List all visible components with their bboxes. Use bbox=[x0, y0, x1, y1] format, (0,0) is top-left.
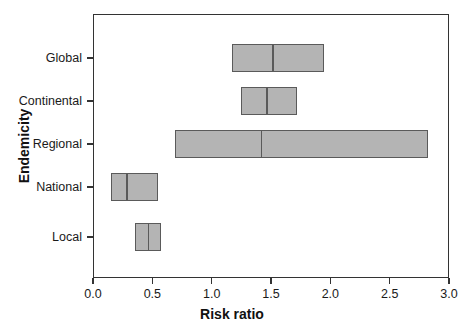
x-axis-tick bbox=[448, 278, 450, 284]
y-axis-tick-label: Local bbox=[52, 230, 82, 244]
x-axis-tick bbox=[270, 278, 272, 284]
x-axis-tick-label: 3.0 bbox=[440, 287, 457, 301]
x-axis-tick bbox=[330, 278, 332, 284]
median-line bbox=[148, 224, 150, 250]
y-axis-tick bbox=[87, 236, 94, 238]
y-axis-tick-label: Regional bbox=[33, 137, 82, 151]
x-axis-tick bbox=[92, 278, 94, 284]
x-axis-tick bbox=[211, 278, 213, 284]
x-axis-tick-label: 0.5 bbox=[144, 287, 161, 301]
x-axis-tick bbox=[389, 278, 391, 284]
risk-ratio-bar bbox=[135, 223, 161, 251]
median-line bbox=[126, 174, 128, 200]
x-axis-tick-label: 0.0 bbox=[84, 287, 101, 301]
risk-ratio-bar bbox=[232, 44, 325, 72]
risk-ratio-bar bbox=[175, 130, 428, 158]
x-axis-tick bbox=[152, 278, 154, 284]
median-line bbox=[266, 88, 268, 114]
y-axis-tick bbox=[87, 100, 94, 102]
y-axis-tick bbox=[87, 57, 94, 59]
risk-ratio-bar bbox=[241, 87, 297, 115]
y-axis-tick bbox=[87, 186, 94, 188]
x-axis-tick-label: 1.5 bbox=[262, 287, 279, 301]
y-axis-title: Endemicity bbox=[16, 66, 32, 226]
x-axis-tick-label: 1.0 bbox=[203, 287, 220, 301]
x-axis-tick-label: 2.5 bbox=[381, 287, 398, 301]
median-line bbox=[261, 131, 263, 157]
risk-ratio-chart-figure: 0.00.51.01.52.02.53.0 GlobalContinentalR… bbox=[0, 0, 464, 329]
y-axis-tick-label: National bbox=[36, 180, 82, 194]
median-line bbox=[272, 45, 274, 71]
x-axis-title: Risk ratio bbox=[0, 306, 464, 322]
y-axis-tick-label: Global bbox=[46, 51, 82, 65]
risk-ratio-bar bbox=[111, 173, 158, 201]
y-axis-tick bbox=[87, 143, 94, 145]
x-axis-tick-label: 2.0 bbox=[322, 287, 339, 301]
